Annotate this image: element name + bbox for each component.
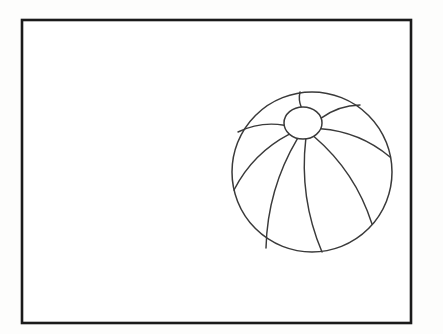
beach-ball — [232, 92, 392, 252]
beach-ball-illustration — [0, 0, 443, 334]
ball-cap — [284, 107, 322, 139]
illustration-canvas — [0, 0, 443, 334]
